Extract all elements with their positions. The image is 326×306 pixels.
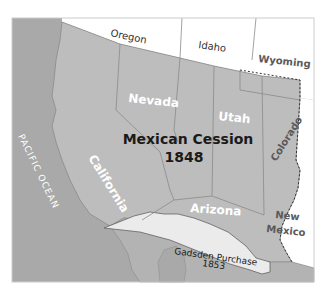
map-year: 1848 bbox=[165, 149, 204, 165]
mexican-cession-map: Oregon Idaho Wyoming Nevada Utah Califor… bbox=[0, 0, 326, 306]
map-title: Mexican Cession bbox=[123, 131, 254, 147]
